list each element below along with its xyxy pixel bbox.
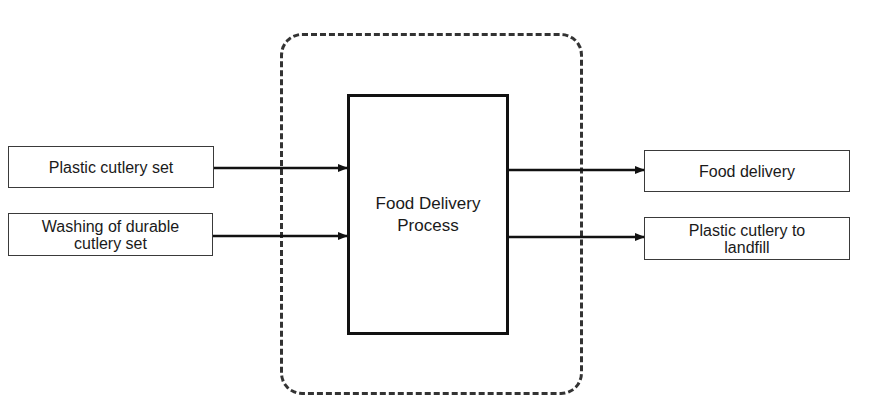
- flow-arrows: [0, 0, 885, 416]
